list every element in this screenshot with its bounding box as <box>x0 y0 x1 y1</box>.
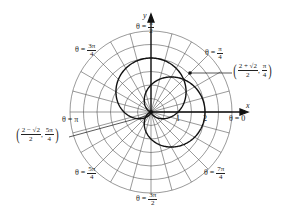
grid-radial-line <box>94 55 151 112</box>
grid-radial-line <box>94 112 151 169</box>
grid-radial-line <box>151 55 208 112</box>
angle-label-zero: θ = 0 <box>229 115 245 123</box>
intersection-point-pi-over-4 <box>188 71 192 75</box>
angle-label-3pi-over-2: θ = 3π2 <box>136 192 157 207</box>
pole-point <box>149 110 153 114</box>
angle-label-3pi-over-4: θ = 3π4 <box>75 43 96 58</box>
radius-tick-2: 2 <box>203 114 207 123</box>
leader-line-5pi-over-4 <box>69 116 146 137</box>
angle-label-pi-over-2: θ = π2 <box>136 20 154 35</box>
angle-label-pi-over-4: θ = π4 <box>205 46 223 61</box>
angle-label-7pi-over-4: θ = 7π4 <box>204 166 225 181</box>
intersection-label-pi-over-4: ( 2 + √22 , π4 ) <box>232 62 273 79</box>
y-axis-label: y <box>143 11 147 20</box>
x-axis-label: x <box>246 101 250 110</box>
intersection-label-5pi-over-4: ( 2 − √22 , 5π4 ) <box>15 126 59 143</box>
angle-label-pi: θ = π <box>62 116 78 124</box>
angle-label-5pi-over-4: θ = 5π4 <box>75 166 96 181</box>
radius-tick-1: 1 <box>176 114 180 123</box>
